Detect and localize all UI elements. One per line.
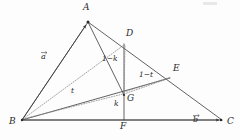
label-param-one-minus-t: 1−t bbox=[139, 71, 153, 79]
vertex-markers bbox=[21, 21, 222, 122]
label-vector-a: a bbox=[41, 53, 46, 61]
label-point-F: F bbox=[120, 122, 126, 131]
vertex-dot-B bbox=[21, 119, 23, 121]
scan-artifact bbox=[203, 2, 217, 5]
vertex-dot-A bbox=[87, 21, 90, 24]
label-param-one-minus-k: 1−k bbox=[102, 55, 118, 63]
label-point-G: G bbox=[127, 94, 134, 103]
label-param-t: t bbox=[71, 87, 74, 95]
segment-AC bbox=[88, 22, 222, 120]
solid-segments bbox=[22, 22, 222, 120]
segment-GE-dotted-2 bbox=[124, 77, 171, 92]
vertex-dot-G bbox=[123, 94, 125, 96]
label-point-B: B bbox=[9, 117, 16, 126]
label-point-A: A bbox=[83, 3, 90, 12]
vector-b-text: b bbox=[193, 115, 198, 124]
label-point-D: D bbox=[126, 29, 133, 38]
label-param-k: k bbox=[114, 100, 119, 108]
geometry-figure: A B C D E F G a b t 1−t 1−k k bbox=[0, 0, 240, 140]
label-point-C: C bbox=[227, 117, 234, 126]
label-vector-b: b bbox=[193, 116, 198, 124]
vector-a-glyph: a bbox=[41, 53, 46, 61]
vector-arrows bbox=[22, 25, 219, 120]
vector-b-glyph: b bbox=[193, 116, 198, 124]
vertex-dot-C bbox=[220, 119, 222, 121]
vector-a-text: a bbox=[41, 52, 46, 61]
figure-canvas bbox=[0, 0, 240, 140]
segment-GE-dotted bbox=[124, 78, 170, 94]
label-point-E: E bbox=[173, 64, 180, 73]
segment-BG-dotted bbox=[23, 94, 123, 119]
